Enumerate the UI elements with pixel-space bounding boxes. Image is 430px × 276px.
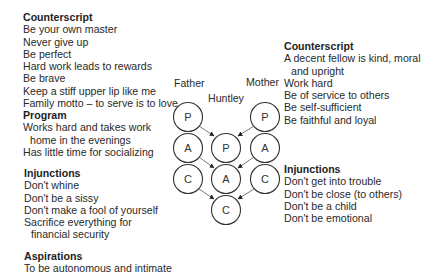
father-c-text: C <box>184 173 192 185</box>
father-a-text: A <box>184 142 192 154</box>
mother-p-text: P <box>261 111 268 123</box>
huntley-c-text: C <box>222 204 230 216</box>
huntley-p-text: P <box>222 142 229 154</box>
huntley-a-text: A <box>222 173 230 185</box>
mother-a-text: A <box>261 142 269 154</box>
mother-c-text: C <box>261 173 269 185</box>
father-p-text: P <box>184 111 191 123</box>
ego-state-diagram: P A C P A C P A C <box>0 0 430 276</box>
